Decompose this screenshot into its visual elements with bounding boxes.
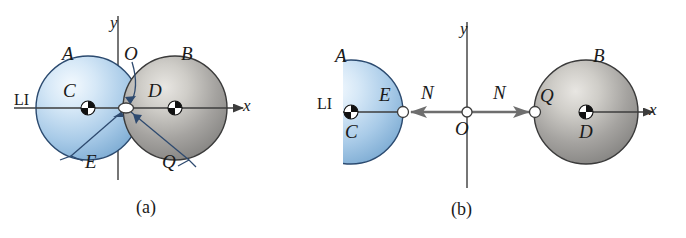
panel-a: A B C D O E Q x y LI (a) <box>0 0 343 238</box>
panel-b-label-force-left: N <box>421 83 434 102</box>
panel-b-center-marker-d <box>579 105 593 119</box>
panel-b-label-center-c: C <box>345 122 358 141</box>
panel-a-label-contact-q: Q <box>162 152 176 171</box>
panel-a-caption: (a) <box>136 198 156 216</box>
panel-a-label-origin-o: O <box>124 44 138 63</box>
panel-a-label-y-axis: y <box>110 14 118 31</box>
panel-b-label-x-axis: x <box>649 101 657 118</box>
panel-a-label-line-of-impact: LI <box>14 92 29 108</box>
panel-a-contact-point <box>119 103 134 113</box>
panel-b-caption: (b) <box>451 200 472 218</box>
figure-root: A B C D O E Q x y LI (a) <box>0 0 686 238</box>
panel-b-graphics <box>343 0 686 238</box>
panel-a-label-sphere-a: A <box>62 44 74 63</box>
panel-b-label-contact-e: E <box>379 85 391 104</box>
panel-a-label-center-d: D <box>148 81 162 100</box>
panel-b-center-marker-c <box>344 105 358 119</box>
panel-a-leader-q-tick <box>178 160 196 167</box>
panel-b: A B C D E Q O N N x y LI (b) <box>343 0 686 238</box>
panel-a-label-x-axis: x <box>243 97 251 114</box>
panel-b-origin-point <box>462 107 472 117</box>
panel-a-label-contact-e: E <box>85 152 97 171</box>
panel-b-label-origin-o: O <box>455 119 469 138</box>
panel-b-label-force-right: N <box>493 83 506 102</box>
panel-b-label-y-axis: y <box>460 20 468 37</box>
panel-b-label-line-of-impact: LI <box>317 96 332 112</box>
panel-b-label-contact-q: Q <box>540 86 554 105</box>
panel-b-label-sphere-b: B <box>593 46 605 65</box>
panel-a-label-center-c: C <box>63 81 76 100</box>
panel-b-label-center-d: D <box>579 122 593 141</box>
panel-a-label-sphere-b: B <box>181 44 193 63</box>
panel-b-contact-point-q <box>530 107 541 118</box>
panel-a-center-marker-c <box>81 101 95 115</box>
panel-b-contact-point-e <box>398 107 409 118</box>
panel-b-label-sphere-a: A <box>335 46 347 65</box>
panel-a-graphics <box>0 0 343 238</box>
panel-a-center-marker-d <box>168 101 182 115</box>
